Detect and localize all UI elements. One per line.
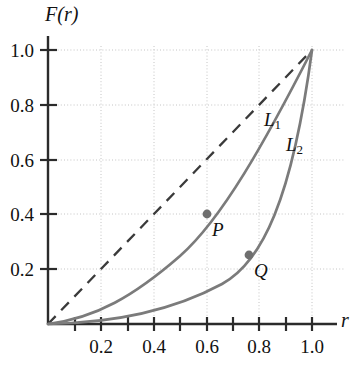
point-marker-p	[203, 210, 212, 219]
x-axis-title: r	[341, 310, 349, 330]
y-tick-label-0.2: 0.2	[0, 260, 34, 279]
grid-lines	[48, 46, 345, 324]
y-tick-label-0.8: 0.8	[0, 96, 34, 115]
curve-label-l2: L2	[286, 135, 303, 156]
axes	[48, 36, 337, 324]
lorenz-curve-figure: 1.0 0.8 0.6 0.4 0.2 0.2 0.4 0.6 0.8 1.0 …	[0, 0, 359, 369]
point-marker-q	[245, 251, 254, 260]
y-tick-label-0.4: 0.4	[0, 205, 34, 224]
y-tick-label-0.6: 0.6	[0, 151, 34, 170]
curve-label-l2-sub: 2	[297, 142, 304, 157]
point-label-p: P	[212, 220, 224, 239]
x-tick-label-0.8: 0.8	[231, 337, 287, 356]
x-tick-label-0.6: 0.6	[179, 337, 235, 356]
y-axis-title: F(r)	[45, 4, 78, 24]
curve-label-l1-main: L	[264, 109, 275, 130]
x-tick-label-1.0: 1.0	[284, 337, 340, 356]
chart-canvas	[0, 0, 359, 369]
x-tick-label-0.2: 0.2	[73, 337, 129, 356]
point-label-q: Q	[254, 261, 268, 280]
curve-label-l1-sub: 1	[275, 117, 282, 132]
curve-label-l2-main: L	[286, 134, 297, 155]
curve-label-l1: L1	[264, 110, 281, 131]
y-tick-label-1.0: 1.0	[0, 41, 34, 60]
x-tick-label-0.4: 0.4	[126, 337, 182, 356]
line-of-equality	[48, 50, 312, 324]
